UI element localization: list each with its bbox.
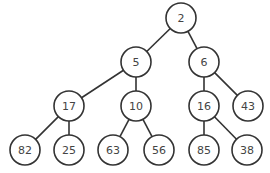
- node-label: 16: [197, 100, 211, 113]
- tree-node: 10: [121, 91, 151, 121]
- node-label: 85: [197, 144, 211, 157]
- tree-node: 82: [10, 135, 40, 165]
- node-label: 5: [133, 56, 140, 69]
- tree-edge: [36, 117, 59, 140]
- tree-edges: [36, 28, 238, 139]
- tree-node: 16: [189, 91, 219, 121]
- tree-node: 6: [189, 47, 219, 77]
- tree-node: 2: [166, 3, 196, 33]
- node-label: 38: [240, 144, 254, 157]
- node-label: 43: [241, 100, 255, 113]
- tree-edge: [120, 119, 129, 136]
- node-label: 10: [129, 100, 143, 113]
- tree-edge: [82, 70, 124, 98]
- tree-edge: [188, 31, 197, 48]
- node-label: 25: [62, 144, 76, 157]
- tree-diagram: 25617101643822563568538: [0, 0, 270, 173]
- tree-edge: [215, 73, 238, 96]
- tree-node: 63: [98, 135, 128, 165]
- node-label: 2: [178, 12, 185, 25]
- node-label: 17: [62, 100, 76, 113]
- tree-edge: [143, 119, 152, 136]
- node-label: 6: [201, 56, 208, 69]
- tree-node: 43: [233, 91, 263, 121]
- node-label: 56: [152, 144, 166, 157]
- tree-node: 56: [144, 135, 174, 165]
- tree-node: 5: [121, 47, 151, 77]
- tree-node: 17: [54, 91, 84, 121]
- tree-node: 25: [54, 135, 84, 165]
- node-label: 63: [106, 144, 120, 157]
- node-label: 82: [18, 144, 32, 157]
- tree-node: 38: [232, 135, 262, 165]
- tree-edge: [214, 117, 236, 140]
- tree-edge: [147, 28, 171, 51]
- tree-node: 85: [189, 135, 219, 165]
